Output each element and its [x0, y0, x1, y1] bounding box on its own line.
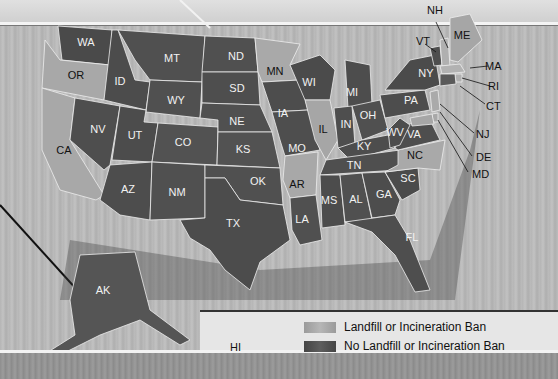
- legend-item-ban: Landfill or Incineration Ban: [304, 320, 486, 334]
- legend-swatch-no-ban: [304, 341, 336, 352]
- label-VT: VT: [416, 35, 430, 47]
- legend-label-no-ban: No Landfill or Incineration Ban: [344, 339, 505, 353]
- legend-label-ban: Landfill or Incineration Ban: [344, 320, 486, 334]
- label-HI: HI: [230, 341, 241, 353]
- label-DE: DE: [476, 151, 491, 163]
- legend-swatch-ban: [304, 322, 336, 333]
- label-CT: CT: [486, 100, 501, 112]
- label-RI: RI: [488, 80, 499, 92]
- legend-item-no-ban: No Landfill or Incineration Ban: [304, 339, 505, 353]
- label-MA: MA: [485, 60, 502, 72]
- label-MD: MD: [472, 168, 489, 180]
- label-NJ: NJ: [476, 128, 489, 140]
- label-NH: NH: [427, 4, 443, 16]
